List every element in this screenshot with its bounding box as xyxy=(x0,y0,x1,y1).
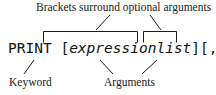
leader-arguments-left xyxy=(100,60,113,74)
caption-keyword: Keyword xyxy=(9,76,52,89)
code-separators: ,; xyxy=(209,40,216,56)
code-open-bracket-2: [ xyxy=(200,40,209,56)
leader-arguments-right xyxy=(142,60,157,74)
code-argument-expressionlist: expressionlist xyxy=(69,40,191,56)
leader-bracket2-to-caption xyxy=(150,15,161,30)
code-open-bracket-1: [ xyxy=(60,40,69,56)
leader-bracket1-to-caption xyxy=(96,15,110,30)
caption-brackets-optional: Brackets surround optional arguments xyxy=(36,1,214,14)
syntax-diagram-figure: Brackets surround optional arguments PRI… xyxy=(0,0,216,95)
code-close-bracket-1: ] xyxy=(191,40,200,56)
syntax-code-line: PRINT [expressionlist][,;] xyxy=(8,39,216,57)
caption-arguments: Arguments xyxy=(104,76,155,89)
code-keyword-print: PRINT xyxy=(8,40,52,56)
leader-keyword xyxy=(24,60,34,74)
